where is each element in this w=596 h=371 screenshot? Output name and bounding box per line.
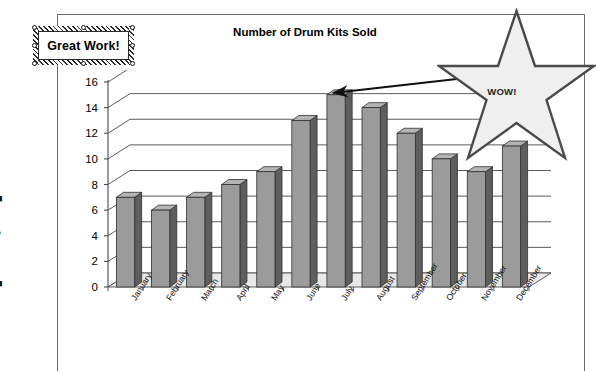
resize-handle-sw[interactable] <box>32 61 37 66</box>
x-tick-august: August <box>374 274 397 302</box>
resize-handle-n[interactable] <box>81 25 86 30</box>
x-tick-june: June <box>304 281 322 302</box>
textbox-body[interactable]: Great Work! <box>38 31 129 60</box>
x-tick-january: January <box>129 271 154 302</box>
textbox-label: Great Work! <box>47 39 119 53</box>
x-tick-may: May <box>269 283 286 302</box>
x-tick-july: July <box>339 284 356 302</box>
x-tick-february: February <box>164 268 191 302</box>
x-tick-december: December <box>514 263 543 302</box>
chart-title: Number of Drum Kits Sold <box>200 26 410 38</box>
chart-canvas: ■ : e l . ■ 0246810121416 JanuaryFebruar… <box>0 0 596 371</box>
great-work-textbox[interactable]: Great Work! <box>33 26 134 65</box>
resize-handle-e[interactable] <box>130 43 135 48</box>
x-tick-april: April <box>234 282 252 302</box>
resize-handle-w[interactable] <box>32 43 37 48</box>
x-tick-october: October <box>444 271 469 302</box>
resize-handle-se[interactable] <box>130 61 135 66</box>
resize-handle-s[interactable] <box>81 61 86 66</box>
x-tick-march: March <box>199 277 220 303</box>
x-tick-november: November <box>479 263 508 302</box>
resize-handle-ne[interactable] <box>130 25 135 30</box>
resize-handle-nw[interactable] <box>32 25 37 30</box>
x-tick-september: September <box>409 261 440 302</box>
star-label: WOW! <box>472 86 532 97</box>
